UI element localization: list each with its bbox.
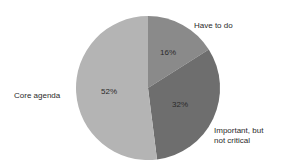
label-important-line2: not critical bbox=[214, 136, 250, 146]
label-core-agenda: Core agenda bbox=[14, 91, 60, 101]
slice-value-core-agenda: 52% bbox=[101, 87, 117, 97]
label-have-to-do: Have to do bbox=[194, 21, 233, 31]
label-important-line1: Important, but bbox=[214, 126, 263, 136]
slice-value-important: 32% bbox=[172, 100, 188, 110]
slice-value-have-to-do: 16% bbox=[160, 48, 176, 58]
